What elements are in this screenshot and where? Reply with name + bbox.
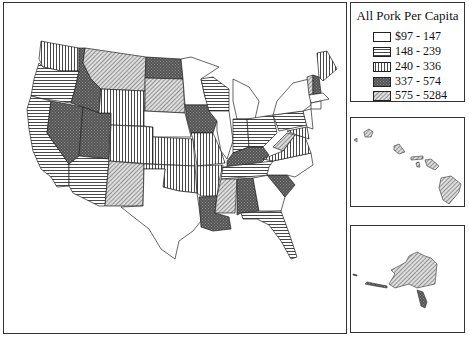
state-ks[interactable] [153, 137, 195, 166]
island-niihau[interactable] [354, 138, 357, 142]
swatch-horizontal [373, 47, 391, 57]
alaska-mainland[interactable] [389, 252, 437, 288]
legend-item-1: $97 - 147 [373, 30, 441, 43]
island-lanai[interactable] [416, 162, 420, 167]
state-ny[interactable] [273, 79, 311, 115]
state-co[interactable] [109, 125, 153, 164]
aleutian-islands[interactable] [365, 282, 387, 288]
legend-item-3: 240 - 336 [373, 60, 441, 73]
island-molokai[interactable] [411, 156, 423, 160]
state-wa[interactable] [39, 41, 79, 71]
hawaii-map [351, 118, 466, 208]
island-hawaii[interactable] [439, 176, 461, 204]
swatch-vertical [373, 62, 391, 72]
state-oh[interactable] [247, 115, 277, 147]
legend-title: All Pork Per Capita [351, 8, 464, 24]
alaska-inset [350, 225, 465, 333]
legend-item-2: 148 - 239 [373, 45, 441, 58]
legend-item-4: 337 - 574 [373, 75, 441, 88]
legend-item-5: 575 - 5284 [373, 89, 447, 102]
island-oahu[interactable] [394, 144, 405, 154]
conterminous-us-map [4, 3, 348, 335]
state-mi[interactable] [233, 79, 259, 119]
island-kauai[interactable] [364, 129, 373, 137]
alaska-map [351, 226, 466, 334]
us-map-panel [3, 2, 347, 334]
hawaii-inset [350, 117, 465, 207]
island-maui[interactable] [425, 159, 439, 170]
state-me[interactable] [317, 51, 337, 81]
state-nd[interactable] [145, 57, 183, 79]
swatch-diagonal [373, 91, 391, 101]
state-sd[interactable] [145, 78, 185, 113]
swatch-blank [373, 32, 391, 42]
state-ut[interactable] [79, 107, 111, 159]
state-fl[interactable] [241, 211, 297, 259]
swatch-dark [373, 77, 391, 87]
legend-panel: All Pork Per Capita $97 - 147 148 - 239 … [350, 2, 465, 102]
alaska-panhandle[interactable] [417, 290, 427, 308]
alaska-islands-west[interactable] [353, 274, 357, 276]
state-nm[interactable] [105, 161, 144, 206]
state-az[interactable] [69, 156, 109, 206]
